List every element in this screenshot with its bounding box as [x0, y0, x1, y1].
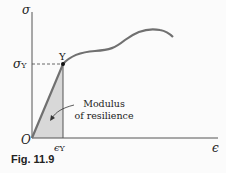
yield-point-label: Y: [59, 52, 66, 62]
modulus-annotation: Modulus of resilience: [74, 98, 134, 122]
diagram-graphic: [0, 0, 226, 173]
stress-strain-diagram: σ ϵ O Y σY ϵY Modulus of resilience Fig.…: [0, 0, 226, 173]
x-axis-label: ϵ: [212, 142, 219, 154]
yield-strain-subscript: Y: [60, 144, 65, 153]
yield-stress-subscript: Y: [21, 61, 26, 70]
figure-caption: Fig. 11.9: [11, 153, 54, 165]
yield-point-marker: [61, 62, 65, 66]
annotation-line-2: of resilience: [74, 110, 134, 122]
annotation-line-1: Modulus: [74, 98, 134, 110]
yield-stress-label: σY: [13, 58, 26, 70]
yield-strain-label: ϵY: [54, 141, 65, 153]
yield-stress-symbol: σ: [13, 57, 21, 71]
origin-label: O: [21, 134, 31, 146]
y-axis-label: σ: [22, 4, 30, 16]
